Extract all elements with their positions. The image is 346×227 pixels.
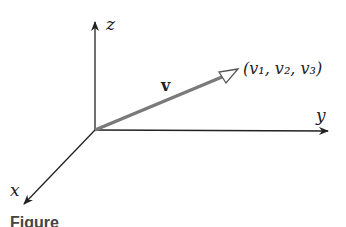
x-axis-label: x: [10, 180, 20, 200]
endpoint-label: (v₁, v₂, v₃): [243, 59, 322, 78]
y-axis: [95, 130, 328, 131]
vector-v: [95, 77, 222, 130]
vector-label: v: [160, 76, 171, 95]
y-axis-label: y: [315, 105, 326, 125]
x-axis: [24, 130, 95, 204]
vector-arrowhead: [219, 69, 238, 83]
figure-caption: Figure: [10, 214, 59, 227]
vector-diagram: z y x v (v₁, v₂, v₃): [0, 0, 346, 227]
z-axis-label: z: [105, 14, 116, 34]
